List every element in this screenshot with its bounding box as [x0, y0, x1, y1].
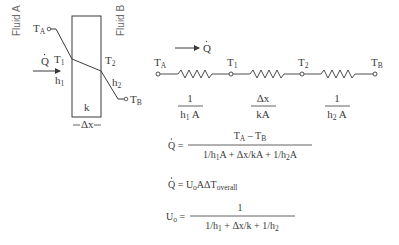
circuit-q-dot-mark — [206, 41, 207, 42]
resistor-chain-icon — [160, 70, 373, 78]
equation-text: Q = UoAΔToverall — [168, 179, 237, 192]
thickness-label: Δx — [81, 118, 94, 130]
h-1-label: h1 — [55, 74, 65, 88]
fraction-numerator: 1 — [334, 92, 340, 104]
q-dot-mark — [44, 54, 45, 55]
fraction-denominator: h1 A — [180, 108, 199, 122]
q-dot-mark — [171, 138, 172, 139]
t-a-node — [47, 27, 51, 31]
fluid-a-label: Fluid A — [11, 5, 22, 36]
equation-denominator: 1/h1A + Δx/kA + 1/h2A — [203, 149, 298, 162]
h-2-label: h2 — [112, 76, 122, 90]
node-t-b-label: TB — [371, 56, 383, 70]
node-t-a-label: TA — [154, 56, 167, 70]
equation-heat-rate: Q = TA – TB 1/h1A + Δx/kA + 1/h2A — [168, 130, 312, 162]
q-dot-label: Q — [41, 55, 49, 67]
t-b-label: TB — [130, 93, 142, 107]
node-t-b — [373, 72, 377, 76]
fluid-b-label: Fluid B — [115, 5, 126, 36]
circuit-q-dot-label: Q — [203, 42, 211, 54]
t-2-label: T2 — [105, 54, 116, 68]
conductivity-label: k — [84, 101, 90, 113]
fraction-numerator: 1 — [187, 92, 193, 104]
node-t-a — [156, 72, 160, 76]
equation-numerator: 1 — [238, 202, 243, 213]
q-dot-mark — [171, 177, 172, 178]
resistance-convection-1: 1 h1 A — [178, 92, 203, 122]
t-b-node — [124, 97, 128, 101]
equation-lhs: Q = — [168, 140, 184, 151]
fraction-denominator: h2 A — [327, 108, 346, 122]
node-t-1 — [229, 72, 233, 76]
node-t-2-label: T2 — [298, 56, 309, 70]
equation-lhs: Uo = — [166, 211, 185, 224]
thermal-circuit: Q TA T1 T2 TB 1 h1 A Δx kA 1 h2 A — [154, 41, 383, 122]
equation-denominator: 1/h1 + Δx/k + 1/h2 — [205, 220, 279, 233]
heat-transfer-diagram: Fluid A Fluid B TA T1 T2 TB Q h1 h2 k Δx… — [0, 0, 399, 245]
t-a-label: TA — [33, 22, 46, 36]
resistance-convection-2: 1 h2 A — [325, 92, 350, 122]
resistance-conduction: Δx kA — [251, 92, 276, 120]
equation-u-overall: Uo = 1 1/h1 + Δx/k + 1/h2 — [166, 202, 295, 233]
node-t-2 — [300, 72, 304, 76]
t-1-label: T1 — [54, 53, 65, 67]
fraction-numerator: Δx — [257, 92, 270, 104]
equation-overall-coefficient: Q = UoAΔToverall — [168, 177, 237, 192]
fraction-denominator: kA — [256, 108, 270, 120]
plane-wall-diagram: Fluid A Fluid B TA T1 T2 TB Q h1 h2 k Δx — [11, 5, 142, 130]
equation-numerator: TA – TB — [234, 130, 266, 143]
node-t-1-label: T1 — [227, 56, 238, 70]
